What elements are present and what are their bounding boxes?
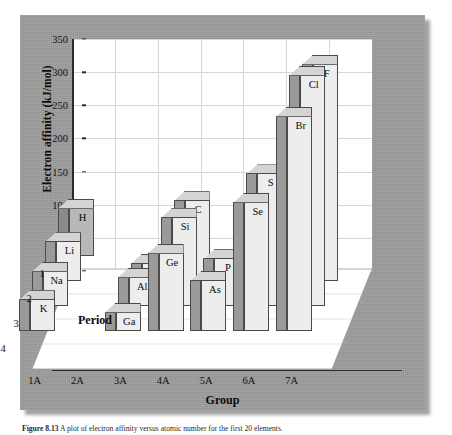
bar-top-face [289,66,325,76]
bar-symbol-label: K [40,303,48,314]
figure-root: 350300250200150100500 Electron affinity … [0,0,452,435]
bar-top-face [161,208,197,218]
bar-symbol-label: Ge [166,256,178,267]
bar-top-face [58,199,94,209]
bar-top-face [174,191,210,201]
x-tick-label-2a: 2A [71,375,84,386]
bar-front-face [244,202,269,331]
caption-text: A plot of electron affinity versus atomi… [60,424,283,433]
bar-symbol-label: Si [181,221,190,232]
bar-symbol-label: Br [295,119,306,130]
bar-side-face [19,299,30,331]
figure-caption: Figure 8.13 A plot of electron affinity … [22,424,434,435]
bar-side-face [276,116,287,331]
bar-top-face [19,290,55,300]
chart-panel: 350300250200150100500 Electron affinity … [20,15,425,410]
x-tick-label-4a: 4A [157,375,170,386]
bar-top-face [148,244,184,254]
x-tick-label-3a: 3A [114,375,127,386]
period-tick-1: 1 [39,268,44,279]
period-axis-label: Period [78,313,112,328]
bar-top-face [190,271,226,281]
bar-side-face [233,202,244,331]
bar-ge: Ge [148,244,184,331]
x-tick-label-6a: 6A [242,375,255,386]
bar-side-face [118,277,129,306]
bar-side-face [190,280,201,331]
bar-symbol-label: As [209,283,221,294]
x-tick-label-5a: 5A [200,375,213,386]
bar-top-face [32,262,68,272]
bar-group: HFOCBLiClSPSiAlNaBrSeAsGeGaK [20,15,425,410]
bar-top-face [45,232,81,242]
bar-front-face [287,116,312,331]
bar-top-face [105,303,141,313]
bar-symbol-label: Se [253,205,264,216]
bar-as: As [190,271,226,331]
period-tick-4: 4 [0,343,5,354]
bar-symbol-label: Cl [309,78,319,89]
bar-symbol-label: Ga [123,315,135,326]
bar-symbol-label: Li [65,245,74,256]
bar-symbol-label: Al [137,280,148,291]
bar-side-face [148,253,159,331]
x-tick-label-1a: 1A [28,375,41,386]
bar-top-face [276,107,312,117]
bar-se: Se [233,193,269,331]
x-tick-label-7a: 7A [285,375,298,386]
x-axis-label: Group [20,393,425,408]
caption-label: Figure 8.13 [22,424,59,433]
bar-symbol-label: Na [50,274,62,285]
period-tick-3: 3 [13,318,18,329]
bar-symbol-label: H [79,211,87,222]
x-axis-line [52,370,402,371]
bar-k: K [19,290,55,331]
bar-top-face [302,55,338,65]
bar-symbol-label: S [268,177,274,188]
bar-br: Br [276,107,312,331]
bar-top-face [233,193,269,203]
period-tick-2: 2 [26,293,31,304]
